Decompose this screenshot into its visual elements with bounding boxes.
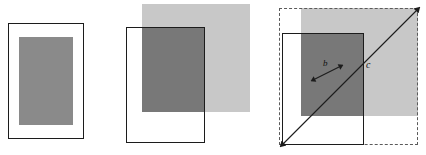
diagonal-arrow-c (284, 11, 416, 143)
figure-canvas: b c (0, 0, 426, 155)
outer-rectangle-b (126, 27, 205, 143)
panel-left (0, 0, 120, 155)
label-c: c (366, 60, 370, 70)
annotation-arrows (260, 0, 426, 155)
panel-middle (120, 0, 260, 155)
inner-gray-rectangle-a (19, 37, 73, 125)
short-arrow-b (315, 67, 339, 79)
panel-right: b c (260, 0, 426, 155)
label-b: b (323, 59, 328, 68)
